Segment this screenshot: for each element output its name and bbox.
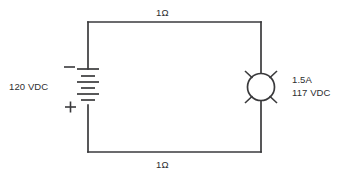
lamp-voltage-label: 117 VDC (292, 87, 331, 99)
lamp-current-label: 1.5A (292, 74, 312, 86)
lamp-ray-sw (245, 96, 253, 103)
lamp-ray-se (270, 96, 278, 103)
lamp-symbol (245, 71, 277, 103)
source-voltage-label: 120 VDC (9, 81, 48, 93)
lamp-ray-nw (245, 71, 253, 78)
top-resistor-label: 1Ω (156, 7, 169, 19)
battery-positive-sign-icon (65, 102, 76, 113)
battery-symbol (77, 69, 99, 100)
bottom-resistor-label: 1Ω (156, 159, 169, 171)
circuit-diagram-canvas: 1Ω 1Ω 120 VDC 1.5A 117 VDC (0, 0, 355, 180)
lamp-ray-ne (270, 71, 278, 78)
